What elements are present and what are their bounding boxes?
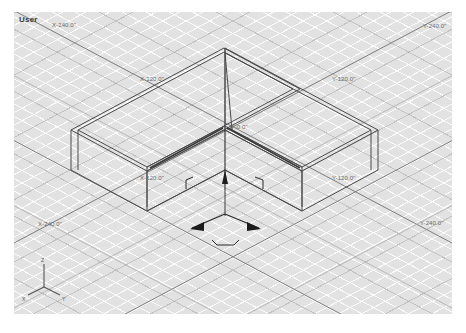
- app-root: Z X Y User X-240.0" Y-240.0" X-120.0" Y-…: [0, 0, 466, 333]
- viewport-label[interactable]: User: [19, 15, 38, 25]
- viewport-vector-overlay: Z X Y: [14, 12, 452, 314]
- grid-label-y-120-mid: Y-120.0": [332, 175, 355, 182]
- grid-label-x-120-upper: X-120.0": [140, 76, 164, 83]
- svg-text:X: X: [22, 296, 26, 302]
- grid-label-y-240-lower: Y-240.0": [420, 220, 443, 227]
- translate-gizmo-graphic: [186, 130, 263, 245]
- grid-label-origin: 0'-0.0": [230, 124, 248, 131]
- grid-secondary-majors: [14, 65, 452, 314]
- svg-text:Y: Y: [62, 296, 66, 302]
- grid-label-y-240-top: Y-240.0": [423, 23, 446, 30]
- grid-label-y-120-upper: Y-120.0": [332, 76, 355, 83]
- svg-text:Z: Z: [41, 257, 44, 263]
- viewport-3d[interactable]: Z X Y User X-240.0" Y-240.0" X-120.0" Y-…: [14, 12, 452, 314]
- grid-label-x-120-mid: X-120.0": [140, 175, 164, 182]
- margin-bottom: [0, 314, 466, 333]
- world-axis-tripod-graphic: Z X Y: [22, 257, 66, 302]
- grid-label-x-240-top: X-240.0": [52, 22, 76, 29]
- grid-label-x-240-lower: X-240.0": [38, 221, 62, 228]
- margin-right: [452, 0, 466, 333]
- margin-top: [0, 0, 466, 12]
- margin-left: [0, 0, 14, 333]
